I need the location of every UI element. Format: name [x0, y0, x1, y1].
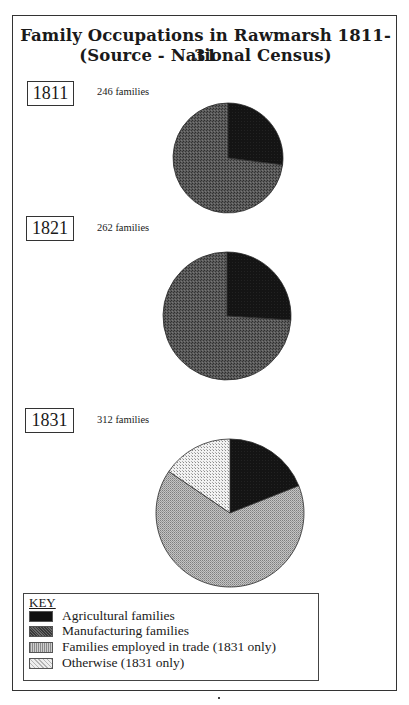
pie-1821: [163, 252, 291, 380]
pie-1831: [156, 439, 304, 587]
swatch-otherwise-icon: [29, 658, 53, 669]
legend: KEY Agricultural families Manufacturing …: [23, 593, 319, 681]
swatch-agricultural-icon: [29, 611, 53, 622]
legend-label: Agricultural families: [62, 608, 175, 624]
pie-1811: [173, 103, 283, 213]
swatch-manufacturing-icon: [29, 626, 53, 637]
legend-label: Families employed in trade (1831 only): [62, 639, 276, 655]
scan-mark: [218, 697, 220, 699]
pie-slice-agricultural-families: [227, 252, 291, 320]
pie-slice-agricultural-families: [228, 103, 283, 165]
legend-label: Otherwise (1831 only): [62, 655, 184, 671]
swatch-trade-icon: [29, 642, 53, 653]
legend-title: KEY: [29, 595, 56, 611]
legend-label: Manufacturing families: [62, 623, 189, 639]
